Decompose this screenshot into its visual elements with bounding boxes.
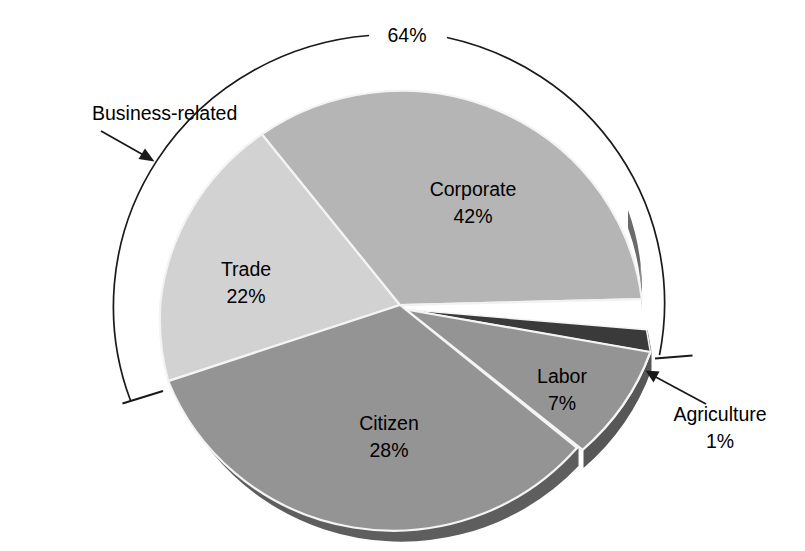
label-agriculture-name: Agriculture: [673, 403, 766, 425]
pie-chart-figure: Corporate 42% Trade 22% Citizen 28% Labo…: [0, 0, 805, 551]
label-trade-name: Trade: [221, 258, 271, 280]
label-citizen-pct: 28%: [369, 439, 408, 461]
label-labor-name: Labor: [537, 365, 587, 387]
pie-chart-svg: Corporate 42% Trade 22% Citizen 28% Labo…: [0, 0, 805, 551]
label-agriculture-pct: 1%: [706, 430, 734, 452]
label-corporate-pct: 42%: [453, 205, 492, 227]
label-citizen-name: Citizen: [359, 412, 419, 434]
label-labor-pct: 7%: [548, 392, 576, 414]
label-trade-pct: 22%: [226, 285, 265, 307]
label-business-related: Business-related: [92, 102, 237, 124]
label-corporate-name: Corporate: [430, 178, 517, 200]
label-business-related-pct: 64%: [387, 24, 426, 46]
